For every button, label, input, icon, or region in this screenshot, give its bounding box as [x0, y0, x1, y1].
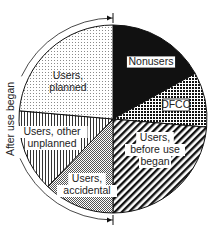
slice-label-text: began	[140, 155, 169, 167]
slice-label: DFCO	[161, 98, 191, 111]
slice-label-text: Users,	[72, 172, 102, 184]
slice-label-text: before use	[130, 143, 180, 155]
pie-chart: NonusersDFCOUsers,before usebeganUsers,a…	[0, 0, 213, 238]
slice-label-text: Users,	[53, 69, 83, 81]
slice-label-text: unplanned	[27, 137, 76, 149]
pie-slices	[19, 25, 207, 213]
slice-label-text: Nonusers	[129, 55, 174, 67]
slice-label-text: planned	[49, 81, 87, 93]
arrowhead-icon	[107, 218, 112, 223]
annotation-text: After use began	[4, 82, 16, 156]
slice-label-text: accidental	[63, 184, 110, 196]
slice-label: Users, otherunplanned	[16, 125, 87, 150]
slice-label-text: DFCO	[161, 98, 191, 110]
slice-label: Users,planned	[49, 69, 87, 93]
arrowhead-icon	[107, 16, 112, 21]
slice-label-text: Users,	[140, 131, 170, 143]
slice-label-text: Users, other	[23, 125, 81, 137]
slice-label: Nonusers	[127, 55, 176, 68]
